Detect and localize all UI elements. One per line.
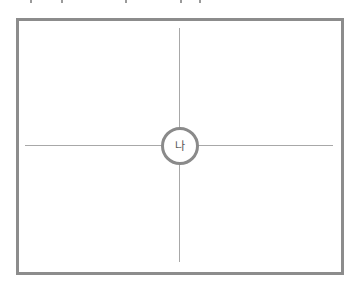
top-mark [199,0,201,3]
top-mark [30,0,32,3]
center-label: 나 [175,141,185,152]
top-mark [180,0,182,3]
top-mark [125,0,127,3]
cropped-top-artifacts [0,0,356,6]
top-mark [61,0,63,3]
center-circle: 나 [161,127,199,165]
